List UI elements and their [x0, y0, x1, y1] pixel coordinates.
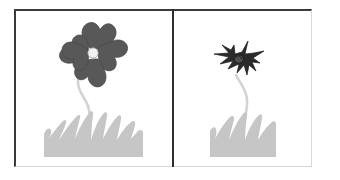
flower-head	[60, 23, 128, 87]
panel-divider	[172, 9, 174, 167]
grass-tuft	[44, 111, 143, 157]
flower-center	[88, 48, 98, 58]
grass-tuft	[210, 112, 276, 157]
wilted-flower-panel	[174, 9, 312, 167]
flower-center	[234, 55, 243, 63]
figure-root	[0, 0, 340, 180]
healthy-flower-illustration	[16, 9, 172, 167]
flower-head	[214, 41, 264, 75]
healthy-flower-panel	[16, 9, 172, 167]
wilted-flower-illustration	[174, 9, 312, 167]
